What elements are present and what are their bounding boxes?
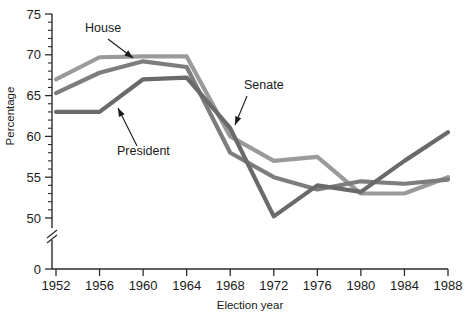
x-axis-tick-label: 1952: [42, 278, 71, 293]
y-axis-tick-label: 65: [27, 88, 41, 103]
y-axis-title: Percentage: [4, 87, 16, 146]
election-turnout-chart: 5055606570750195219561960196419681972197…: [0, 0, 475, 313]
y-axis-tick-label: 75: [27, 7, 41, 22]
annotation-arrowhead-president: [118, 108, 125, 117]
annotation-label-house: House: [85, 21, 121, 35]
x-axis-tick-label: 1980: [346, 278, 375, 293]
y-axis-tick-label-zero: 0: [34, 262, 41, 277]
x-axis-tick-label: 1960: [129, 278, 158, 293]
x-axis-tick-label: 1956: [85, 278, 114, 293]
annotation-label-president: President: [117, 144, 170, 158]
x-axis-tick-label: 1984: [390, 278, 419, 293]
annotation-label-senate: Senate: [244, 78, 284, 92]
series-annotations: HousePresidentSenate: [85, 21, 284, 158]
annotation-arrowhead-senate: [235, 116, 241, 125]
y-axis-tick-label: 70: [27, 47, 41, 62]
y-axis-tick-label: 50: [27, 211, 41, 226]
x-axis-title: Election year: [217, 299, 284, 311]
x-axis-tick-label: 1972: [259, 278, 288, 293]
x-axis-tick-label: 1976: [303, 278, 332, 293]
y-axis-tick-label: 55: [27, 170, 41, 185]
chart-canvas: 5055606570750195219561960196419681972197…: [0, 0, 475, 313]
x-axis-tick-label: 1988: [434, 278, 463, 293]
y-axis-tick-label: 60: [27, 129, 41, 144]
x-axis-tick-label: 1968: [216, 278, 245, 293]
axes: 5055606570750195219561960196419681972197…: [27, 7, 463, 294]
x-axis-tick-label: 1964: [172, 278, 201, 293]
